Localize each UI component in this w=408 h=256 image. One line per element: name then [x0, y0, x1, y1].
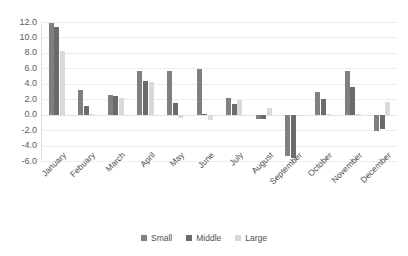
- legend-label: Small: [151, 233, 172, 243]
- bar-group: [338, 22, 368, 161]
- legend-item[interactable]: Middle: [186, 233, 221, 243]
- legend-item[interactable]: Large: [235, 233, 267, 243]
- x-tick-label: December: [358, 150, 393, 185]
- bar-small: [256, 115, 261, 119]
- bar-group: [249, 22, 279, 161]
- bar-middle: [232, 104, 237, 115]
- bar-large: [149, 82, 154, 114]
- bar-middle: [380, 115, 385, 130]
- legend-swatch-icon: [235, 235, 241, 241]
- bar-group: [72, 22, 102, 161]
- x-axis-tick-labels: JanuaryFebuaryMarchAprilMayJuneJulyAugus…: [42, 150, 397, 220]
- bar-group: [42, 22, 72, 161]
- bar-group: [131, 22, 161, 161]
- bar-large: [267, 108, 272, 115]
- bar-middle: [350, 87, 355, 115]
- bar-small: [108, 95, 113, 115]
- y-tick-label: 10.0: [3, 33, 37, 42]
- legend-swatch-icon: [141, 235, 147, 241]
- bar-middle: [143, 81, 148, 115]
- bar-middle: [84, 106, 89, 114]
- bar-small: [315, 92, 320, 115]
- bar-small: [78, 90, 83, 115]
- y-tick-label: 0.0: [3, 110, 37, 119]
- x-tick-label: August: [249, 150, 275, 176]
- bar-group: [101, 22, 131, 161]
- bar-large: [237, 100, 242, 115]
- y-tick-label: 12.0: [3, 18, 37, 27]
- x-tick-label: January: [39, 150, 67, 178]
- bar-small: [226, 98, 231, 114]
- bar-group: [308, 22, 338, 161]
- legend-item[interactable]: Small: [141, 233, 172, 243]
- bar-large: [297, 115, 302, 117]
- y-tick-label: -2.0: [3, 126, 37, 135]
- legend-label: Middle: [196, 233, 221, 243]
- bar-large: [326, 114, 331, 115]
- bar-large: [60, 51, 65, 114]
- bar-small: [197, 69, 202, 115]
- bar-small: [137, 71, 142, 115]
- bar-middle: [54, 27, 59, 114]
- bar-chart: 12.010.08.06.04.02.00.0-2.0-4.0-6.0 Janu…: [0, 0, 408, 256]
- bar-large: [89, 114, 94, 115]
- y-tick-label: 6.0: [3, 64, 37, 73]
- y-tick-label: 8.0: [3, 48, 37, 57]
- x-tick-label: March: [103, 150, 127, 174]
- legend-label: Large: [245, 233, 267, 243]
- bar-middle: [261, 115, 266, 120]
- bar-group: [220, 22, 250, 161]
- legend-swatch-icon: [186, 235, 192, 241]
- y-tick-label: 2.0: [3, 95, 37, 104]
- bar-group: [160, 22, 190, 161]
- x-tick-label: Febuary: [68, 150, 97, 179]
- chart-legend: SmallMiddleLarge: [0, 233, 408, 243]
- x-tick-label: July: [228, 150, 246, 168]
- bar-large: [208, 115, 213, 120]
- y-tick-label: -4.0: [3, 141, 37, 150]
- x-tick-label: May: [168, 150, 186, 168]
- bar-group: [367, 22, 397, 161]
- x-tick-label: October: [306, 150, 334, 178]
- x-tick-label: April: [137, 150, 156, 169]
- y-tick-label: 4.0: [3, 79, 37, 88]
- bar-groups: [42, 22, 397, 161]
- bar-middle: [202, 114, 207, 115]
- x-tick-label: November: [329, 150, 364, 185]
- bar-small: [374, 115, 379, 131]
- bar-large: [119, 98, 124, 114]
- y-tick-label: -6.0: [3, 157, 37, 166]
- bar-large: [385, 102, 390, 114]
- bar-small: [345, 71, 350, 114]
- y-axis-tick-labels: 12.010.08.06.04.02.00.0-2.0-4.0-6.0: [0, 22, 37, 161]
- bar-large: [356, 114, 361, 115]
- bar-small: [167, 71, 172, 114]
- bar-small: [49, 23, 54, 115]
- bar-middle: [173, 103, 178, 115]
- bar-large: [178, 115, 183, 118]
- bar-group: [279, 22, 309, 161]
- bar-middle: [113, 96, 118, 115]
- bar-middle: [321, 99, 326, 114]
- bar-group: [190, 22, 220, 161]
- x-tick-label: June: [196, 150, 216, 170]
